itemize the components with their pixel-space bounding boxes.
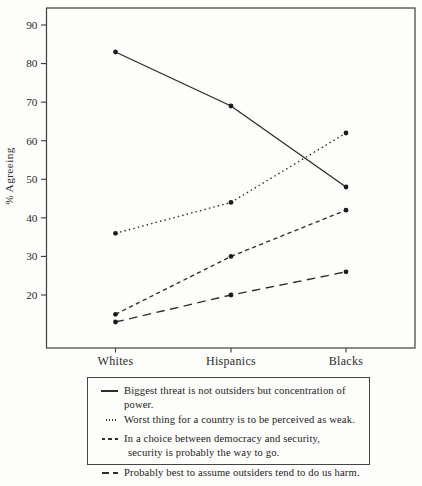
x-tick-label: Whites bbox=[98, 354, 134, 368]
data-point-marker bbox=[113, 50, 118, 55]
data-point-marker bbox=[344, 269, 349, 274]
y-tick-label: 30 bbox=[26, 250, 38, 262]
data-point-marker bbox=[344, 131, 349, 136]
series-line-short-dash bbox=[116, 210, 347, 314]
data-point-marker bbox=[113, 231, 118, 236]
legend-item-security: In a choice between democracy and securi… bbox=[101, 432, 363, 460]
legend-item-weak: Worst thing for a country is to be perce… bbox=[101, 413, 363, 427]
y-tick-label: 50 bbox=[26, 173, 38, 185]
data-point-marker bbox=[113, 320, 118, 325]
x-tick-label: Hispanics bbox=[206, 354, 256, 368]
data-point-marker bbox=[229, 200, 234, 205]
y-tick-label: 90 bbox=[26, 19, 38, 31]
data-point-marker bbox=[229, 254, 234, 259]
solid-line-swatch bbox=[101, 390, 118, 392]
legend-label: Worst thing for a country is to be perce… bbox=[124, 413, 355, 427]
y-axis-label: % Agreeing bbox=[3, 147, 15, 205]
dotted-line-swatch bbox=[101, 419, 118, 421]
data-point-marker bbox=[229, 104, 234, 109]
data-point-marker bbox=[229, 293, 234, 298]
data-point-marker bbox=[113, 312, 118, 317]
y-tick-label: 60 bbox=[26, 135, 38, 147]
legend-box: Biggest threat is not outsiders but conc… bbox=[87, 377, 370, 465]
legend-label: In a choice between democracy and securi… bbox=[124, 432, 320, 460]
data-point-marker bbox=[344, 185, 349, 190]
series-line-dotted bbox=[116, 133, 347, 233]
line-chart: 9080706050403020WhitesHispanicsBlacks% A… bbox=[0, 0, 422, 376]
long-dash-line-swatch bbox=[101, 472, 118, 474]
legend-item-power: Biggest threat is not outsiders but conc… bbox=[101, 384, 363, 412]
short-dash-line-swatch bbox=[101, 438, 118, 440]
figure-page: 9080706050403020WhitesHispanicsBlacks% A… bbox=[0, 0, 422, 486]
y-tick-label: 40 bbox=[26, 212, 38, 224]
y-tick-label: 20 bbox=[26, 289, 38, 301]
x-tick-label: Blacks bbox=[329, 354, 363, 368]
legend-item-harm: Probably best to assume outsiders tend t… bbox=[101, 466, 363, 480]
series-line-solid bbox=[116, 52, 347, 187]
data-point-marker bbox=[344, 208, 349, 213]
y-tick-label: 70 bbox=[26, 96, 38, 108]
legend-label: Biggest threat is not outsiders but conc… bbox=[124, 384, 363, 412]
legend-label: Probably best to assume outsiders tend t… bbox=[124, 466, 360, 480]
y-tick-label: 80 bbox=[26, 57, 38, 69]
